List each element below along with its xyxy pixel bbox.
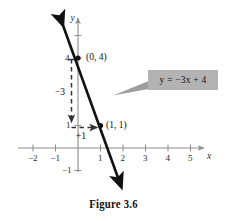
equation-callout-box: y = −3x + 4 bbox=[148, 70, 218, 90]
line-graph bbox=[63, 24, 122, 186]
figure-caption: Figure 3.6 bbox=[20, 196, 206, 212]
x-axis-label: x bbox=[207, 152, 211, 162]
y-axis bbox=[75, 18, 82, 172]
x-tick-label-3: 3 bbox=[143, 154, 148, 163]
y-tick-label-4: 4 bbox=[65, 54, 70, 63]
callout-pointer bbox=[113, 80, 151, 96]
y-tick-label--1: −1 bbox=[62, 166, 72, 175]
point-label-1-1: (1, 1) bbox=[106, 121, 127, 131]
figure-container: −2 −1 1 2 3 4 5 4 1 −1 y x (0, 4) (1, 1)… bbox=[0, 0, 227, 221]
y-axis-label: y bbox=[71, 14, 75, 24]
rise-annotation-arrow bbox=[69, 59, 75, 122]
y-tick-label-1: 1 bbox=[66, 121, 71, 130]
point-1-1-marker bbox=[98, 123, 103, 128]
equation-text: y = −3x + 4 bbox=[160, 75, 207, 85]
x-tick-label-1: 1 bbox=[98, 154, 103, 163]
x-tick-label--2: −2 bbox=[28, 154, 38, 163]
coordinate-plane-graphic bbox=[0, 0, 227, 221]
run-label: +1 bbox=[76, 132, 86, 142]
x-tick-label-4: 4 bbox=[166, 154, 171, 163]
x-tick-label-2: 2 bbox=[121, 154, 126, 163]
x-tick-label-5: 5 bbox=[188, 154, 193, 163]
point-label-0-4: (0, 4) bbox=[86, 53, 107, 63]
x-tick-label--1: −1 bbox=[51, 154, 61, 163]
x-axis bbox=[18, 145, 204, 152]
point-0-4-marker bbox=[75, 55, 80, 60]
rise-label: −3 bbox=[55, 88, 65, 98]
